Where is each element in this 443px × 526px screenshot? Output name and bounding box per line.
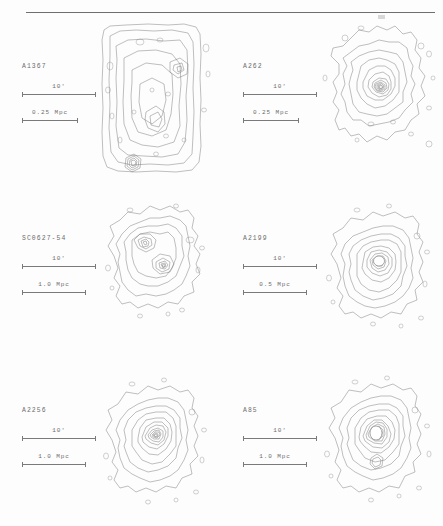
angular-scale-rule [243, 92, 317, 97]
contour-map-sc0627-54 [96, 192, 220, 358]
header-rule [26, 12, 435, 13]
angular-scale-label: 10' [243, 427, 317, 435]
scale-tick-left [22, 290, 23, 295]
physical-scale-bar: 0.5 Mpc [243, 281, 307, 295]
scale-tick-left [22, 118, 23, 123]
scale-line [22, 94, 96, 95]
panel-sc0627-54: SC0627-54 10' 1.0 Mpc [0, 190, 221, 359]
physical-scale-label: 0.5 Mpc [243, 281, 307, 289]
contour-map-a2256 [96, 364, 220, 526]
contour-map-a2199 [317, 192, 441, 358]
scale-tick-left [243, 92, 244, 97]
angular-scale-bar: 10' [22, 427, 96, 441]
physical-scale-label: 1.0 Mpc [22, 453, 86, 461]
scale-line [22, 464, 86, 465]
scale-line [22, 120, 78, 121]
scale-tick-left [22, 264, 23, 269]
scale-tick-right [306, 462, 307, 467]
contour-map-a262 [317, 20, 441, 186]
physical-scale-label: 1.0 Mpc [243, 453, 307, 461]
physical-scale-rule [243, 462, 307, 467]
scale-tick-left [22, 462, 23, 467]
physical-scale-bar: 0.25 Mpc [22, 109, 78, 123]
scale-line [22, 438, 96, 439]
scale-tick-right [306, 290, 307, 295]
figure-page: A1367 10' 0.25 Mpc [0, 0, 443, 526]
panel-a2199: A2199 10' 0.5 Mpc [221, 190, 442, 359]
angular-scale-label: 10' [243, 83, 317, 91]
contour-map-a1367 [96, 20, 220, 186]
angular-scale-bar: 10' [243, 427, 317, 441]
scale-tick-left [243, 118, 244, 123]
scale-tick-left [22, 92, 23, 97]
angular-scale-label: 10' [243, 255, 317, 263]
contour-map-a85 [317, 364, 441, 526]
scale-tick-right [77, 118, 78, 123]
angular-scale-label: 10' [22, 83, 96, 91]
physical-scale-label: 0.25 Mpc [22, 109, 78, 117]
scale-line [243, 266, 317, 267]
physical-scale-rule [22, 462, 86, 467]
panel-a1367: A1367 10' 0.25 Mpc [0, 18, 221, 187]
angular-scale-bar: 10' [22, 83, 96, 97]
physical-scale-bar: 1.0 Mpc [22, 453, 86, 467]
angular-scale-label: 10' [22, 255, 96, 263]
scale-line [243, 464, 307, 465]
angular-scale-rule [22, 264, 96, 269]
angular-scale-label: 10' [22, 427, 96, 435]
scale-tick-left [243, 264, 244, 269]
physical-scale-label: 0.25 Mpc [243, 109, 299, 117]
contour-panel-grid: A1367 10' 0.25 Mpc [0, 18, 443, 526]
physical-scale-bar: 1.0 Mpc [243, 453, 307, 467]
angular-scale-rule [243, 436, 317, 441]
scale-tick-left [22, 436, 23, 441]
angular-scale-rule [22, 436, 96, 441]
scale-line [22, 266, 96, 267]
physical-scale-bar: 0.25 Mpc [243, 109, 299, 123]
physical-scale-rule [243, 118, 299, 123]
angular-scale-rule [22, 92, 96, 97]
scale-line [243, 292, 307, 293]
scale-tick-left [243, 462, 244, 467]
panel-a262: A262 10' 0.25 Mpc [221, 18, 442, 187]
scale-tick-left [243, 290, 244, 295]
angular-scale-bar: 10' [22, 255, 96, 269]
scale-tick-left [243, 436, 244, 441]
angular-scale-rule [243, 264, 317, 269]
physical-scale-bar: 1.0 Mpc [22, 281, 86, 295]
physical-scale-rule [22, 118, 78, 123]
physical-scale-label: 1.0 Mpc [22, 281, 86, 289]
physical-scale-rule [22, 290, 86, 295]
angular-scale-bar: 10' [243, 83, 317, 97]
scale-tick-right [85, 462, 86, 467]
scale-line [243, 120, 299, 121]
scale-line [22, 292, 86, 293]
scale-tick-right [85, 290, 86, 295]
angular-scale-bar: 10' [243, 255, 317, 269]
scale-tick-right [298, 118, 299, 123]
scale-line [243, 438, 317, 439]
physical-scale-rule [243, 290, 307, 295]
scale-line [243, 94, 317, 95]
panel-a85: A85 10' 1.0 Mpc [221, 362, 442, 526]
panel-a2256: A2256 10' 1.0 Mpc [0, 362, 221, 526]
